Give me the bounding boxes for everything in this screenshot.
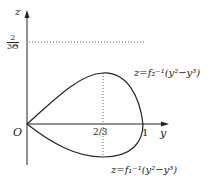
y-axis-label: y	[160, 127, 166, 140]
tick-two-thirds: 2/3	[93, 127, 107, 137]
z-level-denominator: 3Θ	[7, 43, 19, 51]
origin-label: O	[13, 126, 22, 139]
z-level-fraction: 2 3Θ	[7, 34, 19, 51]
lower-curve-f1	[27, 124, 143, 157]
upper-curve-f2	[27, 73, 143, 124]
diagram-canvas	[0, 0, 221, 182]
lower-curve-label: z=f₁⁻¹(y²−y³)	[111, 164, 177, 175]
z-axis-label: z	[15, 6, 20, 17]
upper-curve-label: z=f₂⁻¹(y²−y³)	[134, 67, 200, 78]
y-axis-arrow-icon	[161, 122, 169, 127]
tick-one: 1	[142, 127, 148, 138]
z-axis-arrow-icon	[25, 10, 30, 18]
